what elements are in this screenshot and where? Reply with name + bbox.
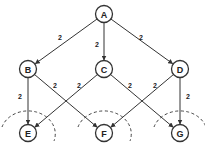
edge-weight-label: 2: [53, 82, 57, 89]
node-g: G: [172, 125, 189, 142]
edge-weight-label: 2: [18, 93, 22, 100]
node-f: F: [96, 125, 113, 142]
node-label: C: [101, 65, 108, 75]
edge-weight-label: 2: [95, 41, 99, 48]
edge-a-d: [111, 19, 173, 64]
node-label: G: [176, 129, 183, 139]
edge-weight-label: 2: [153, 82, 157, 89]
node-c: C: [96, 61, 113, 78]
node-a: A: [96, 6, 113, 23]
node-label: B: [25, 65, 32, 75]
node-label: D: [177, 65, 184, 75]
node-label: E: [25, 129, 31, 139]
node-e: E: [20, 125, 37, 142]
node-b: B: [20, 61, 37, 78]
edge-weight-label: 2: [139, 34, 143, 41]
edge-weight-label: 2: [58, 34, 62, 41]
node-label: F: [101, 129, 107, 139]
edge-weight-label: 2: [77, 82, 81, 89]
edge-weight-label: 2: [186, 93, 190, 100]
graph-diagram: 222222222 ABCDEFG: [0, 0, 205, 152]
edge-a-b: [35, 19, 97, 64]
node-label: A: [101, 10, 108, 20]
edge-weight-label: 2: [128, 82, 132, 89]
node-d: D: [172, 61, 189, 78]
